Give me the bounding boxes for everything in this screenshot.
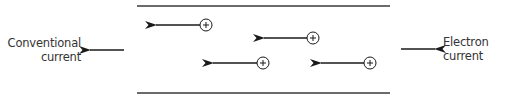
positive-charge-2	[264, 32, 319, 44]
electron-current-label: Electron current	[443, 35, 489, 63]
current-direction-diagram: Conventional current Electron current	[0, 0, 508, 106]
positive-charge-3	[213, 57, 269, 69]
positive-charge-1	[156, 19, 212, 31]
positive-charge-4	[321, 57, 376, 69]
conventional-current-label: Conventional current	[8, 36, 81, 64]
conventional-current-label-line2: current	[8, 50, 81, 64]
electron-current-label-line1: Electron	[443, 35, 489, 49]
electron-current-label-line2: current	[443, 49, 489, 63]
conventional-current-label-line1: Conventional	[8, 36, 81, 50]
